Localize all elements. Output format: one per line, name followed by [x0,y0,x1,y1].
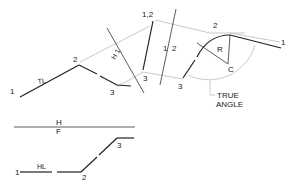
label-top-1: 1 [10,87,15,96]
label-top-2: 2 [73,55,78,64]
label-aux2-3: 3 [178,82,183,91]
label-fold-12-a: 1 [163,44,168,53]
label-bot-1: 1 [15,168,20,177]
label-true-angle-2: ANGLE [216,100,243,109]
label-bot-2: 2 [82,173,87,182]
object-lines [20,21,281,172]
label-aux2-1: 1 [281,38,286,47]
label-aux1-3: 3 [143,74,148,83]
label-radius: R [217,45,223,54]
label-top-3: 3 [110,88,115,97]
label-horizontal-line: HL [37,163,46,170]
label-fold-f: F [56,127,61,136]
label-fold-12-b: 2 [172,44,177,53]
diagram-canvas: 1 2 3 TL H 1 1,2 3 1 2 2 1 3 R C TRUE AN… [0,0,295,185]
label-true-length: TL [37,77,46,85]
label-center: C [228,65,234,74]
label-aux1-12: 1,2 [142,10,154,19]
descriptive-geometry-drawing: 1 2 3 TL H 1 1,2 3 1 2 2 1 3 R C TRUE AN… [0,0,295,185]
label-true-angle-1: TRUE [217,91,239,100]
label-aux2-2: 2 [213,21,218,30]
label-bot-3: 3 [117,141,122,150]
label-fold-h: H [56,118,62,127]
